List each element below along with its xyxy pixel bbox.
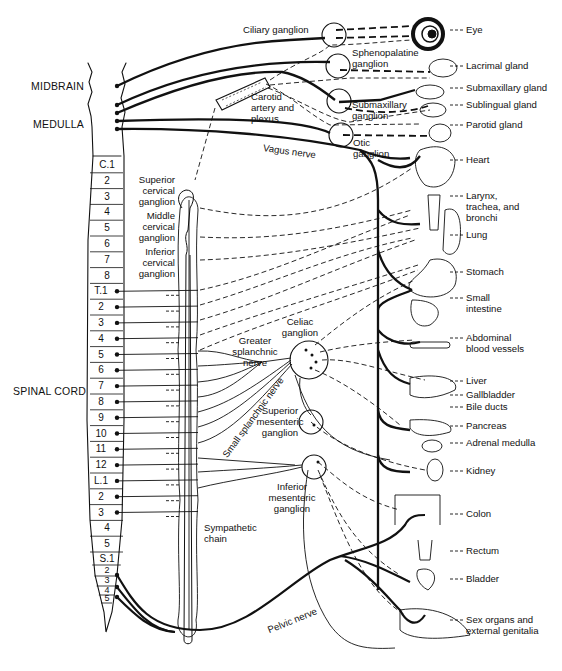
spinal-segment-label: 3 bbox=[84, 317, 118, 328]
autonomic-nervous-system-diagram: MIDBRAIN MEDULLA SPINAL CORD C.12345678T… bbox=[0, 0, 562, 671]
organ-label: Gallbladder bbox=[466, 389, 515, 400]
midbrain-label: MIDBRAIN bbox=[6, 81, 84, 92]
spinal-segment-label: 2 bbox=[90, 565, 124, 575]
organ-label: Rectum bbox=[466, 545, 499, 556]
organ-label: Eye bbox=[466, 24, 483, 35]
spinal-segment-label: 3 bbox=[84, 507, 118, 518]
celiac-ganglion-2: ganglion bbox=[270, 327, 330, 338]
organ-label: intestine bbox=[466, 303, 502, 314]
organ-label: bronchi bbox=[466, 212, 497, 223]
spinal-segment-label: 5 bbox=[90, 593, 124, 603]
organ-label: Abdominal bbox=[466, 332, 511, 343]
submaxillary-ganglion-label-1: Submaxillary bbox=[352, 99, 407, 110]
spinal-cord-label: SPINAL CORD bbox=[2, 386, 86, 397]
inferior-cervical-3: ganglion bbox=[110, 268, 175, 279]
organ-label: external genitalia bbox=[466, 625, 539, 636]
organ-label: Larynx, bbox=[466, 190, 497, 201]
organ-label: trachea, and bbox=[466, 201, 519, 212]
inferior-mesenteric-1: Inferior bbox=[262, 481, 322, 492]
organ-label: Stomach bbox=[466, 266, 504, 277]
organ-label: Lacrimal gland bbox=[466, 60, 528, 71]
inferior-cervical-1: Inferior bbox=[110, 246, 175, 257]
sphenopalatine-label-1: Sphenopalatine bbox=[352, 47, 419, 58]
organ-label: blood vessels bbox=[466, 343, 524, 354]
submaxillary-ganglion-label-2: ganglion bbox=[352, 110, 388, 121]
superior-cervical-3: ganglion bbox=[110, 196, 175, 207]
spinal-segment-label: 2 bbox=[84, 491, 118, 502]
carotid-label-1: Carotid bbox=[251, 91, 282, 102]
organ-label: Parotid gland bbox=[466, 119, 523, 130]
middle-cervical-1: Middle bbox=[110, 210, 175, 221]
spinal-segment-label: S.1 bbox=[90, 553, 124, 564]
superior-cervical-1: Superior bbox=[110, 174, 175, 185]
celiac-ganglion-1: Celiac bbox=[270, 316, 330, 327]
superior-mesenteric-3: ganglion bbox=[250, 427, 310, 438]
otic-ganglion-label-1: Otic bbox=[353, 137, 370, 148]
organ-label: Bile ducts bbox=[466, 401, 508, 412]
spinal-segment-label: C.1 bbox=[90, 159, 124, 170]
spinal-segment-label: 9 bbox=[84, 412, 118, 423]
organ-label: Pancreas bbox=[466, 420, 507, 431]
sphenopalatine-label-2: ganglion bbox=[352, 58, 388, 69]
organ-label: Heart bbox=[466, 154, 489, 165]
spinal-segment-label: 4 bbox=[84, 333, 118, 344]
organ-label: Adrenal medulla bbox=[466, 437, 535, 448]
organ-label: Sublingual gland bbox=[466, 99, 537, 110]
spinal-segment-label: 10 bbox=[84, 428, 118, 439]
spinal-segment-label: 8 bbox=[84, 396, 118, 407]
sympathetic-chain-2: chain bbox=[204, 533, 227, 544]
spinal-segment-label: 5 bbox=[90, 538, 124, 549]
carotid-label-3: plexus bbox=[251, 113, 279, 124]
spinal-segment-label: L.1 bbox=[84, 475, 118, 486]
organ-label: Kidney bbox=[466, 465, 495, 476]
spinal-segment-label: 4 bbox=[90, 522, 124, 533]
organ-label: Sex organs and bbox=[466, 614, 533, 625]
spinal-segment-label: 5 bbox=[84, 349, 118, 360]
medulla-label: MEDULLA bbox=[6, 119, 84, 130]
superior-mesenteric-1: Superior bbox=[250, 405, 310, 416]
spinal-segment-label: 7 bbox=[84, 380, 118, 391]
spinal-segment-label: 12 bbox=[84, 459, 118, 470]
organ-label: Colon bbox=[466, 508, 491, 519]
organ-label: Submaxillary gland bbox=[466, 82, 547, 93]
organ-label: Liver bbox=[466, 375, 487, 386]
organ-label: Small bbox=[466, 292, 490, 303]
organ-label: Bladder bbox=[466, 573, 499, 584]
inferior-mesenteric-3: ganglion bbox=[262, 503, 322, 514]
greater-splanchnic-2: splanchnic bbox=[225, 346, 285, 357]
organ-label: Lung bbox=[466, 229, 487, 240]
spinal-segment-label: 6 bbox=[84, 364, 118, 375]
inferior-mesenteric-2: mesenteric bbox=[262, 492, 322, 503]
sympathetic-chain-1: Sympathetic bbox=[204, 522, 257, 533]
spinal-segment-label: T.1 bbox=[84, 285, 118, 296]
superior-mesenteric-2: mesenteric bbox=[250, 416, 310, 427]
carotid-label-2: artery and bbox=[251, 102, 294, 113]
otic-ganglion-label-2: ganglion bbox=[353, 148, 389, 159]
middle-cervical-3: ganglion bbox=[110, 232, 175, 243]
superior-cervical-2: cervical bbox=[110, 185, 175, 196]
spinal-segment-label: 11 bbox=[84, 443, 118, 454]
ciliary-ganglion-label: Ciliary ganglion bbox=[243, 24, 309, 35]
spinal-segment-label: 2 bbox=[84, 301, 118, 312]
spinal-segment-label: 3 bbox=[90, 575, 124, 585]
greater-splanchnic-3: nerve bbox=[225, 357, 285, 368]
middle-cervical-2: cervical bbox=[110, 221, 175, 232]
inferior-cervical-2: cervical bbox=[110, 257, 175, 268]
